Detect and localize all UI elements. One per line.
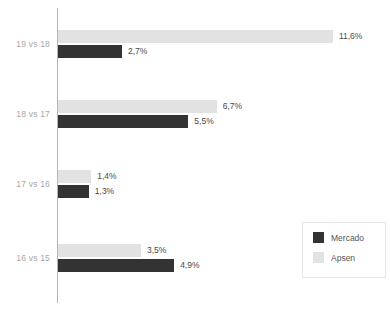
category-group: 18 vs 17 6,7% 5,5% (0, 96, 390, 138)
bar-row-mercado: 5,5% (58, 115, 214, 128)
category-label: 17 vs 16 (0, 179, 50, 189)
bar-chart: 19 vs 18 11,6% 2,7% 18 vs 17 6,7% 5,5% (0, 0, 390, 315)
category-group: 17 vs 16 1,4% 1,3% (0, 166, 390, 208)
bar-apsen[interactable] (58, 100, 217, 113)
category-label: 16 vs 15 (0, 253, 50, 263)
category-group: 19 vs 18 11,6% 2,7% (0, 26, 390, 68)
bar-mercado[interactable] (58, 45, 122, 58)
bar-row-apsen: 3,5% (58, 244, 166, 257)
legend-swatch-icon-mercado (313, 232, 324, 243)
bar-row-apsen: 6,7% (58, 100, 242, 113)
bar-value-apsen: 6,7% (223, 100, 242, 113)
bar-value-mercado: 2,7% (128, 45, 147, 58)
bar-apsen[interactable] (58, 244, 141, 257)
bar-value-mercado: 5,5% (194, 115, 213, 128)
bar-value-apsen: 11,6% (339, 30, 362, 43)
bar-value-apsen: 1,4% (97, 170, 116, 183)
bar-row-apsen: 11,6% (58, 30, 362, 43)
bar-mercado[interactable] (58, 115, 188, 128)
legend-swatch-icon-apsen (313, 252, 324, 263)
category-label: 18 vs 17 (0, 109, 50, 119)
legend-item-mercado[interactable]: Mercado (313, 232, 385, 243)
legend-label-apsen: Apsen (331, 253, 355, 263)
category-label: 19 vs 18 (0, 39, 50, 49)
chart-legend: Mercado Apsen (302, 222, 386, 278)
bar-value-apsen: 3,5% (147, 244, 166, 257)
bar-row-mercado: 2,7% (58, 45, 147, 58)
bar-mercado[interactable] (58, 185, 89, 198)
legend-item-apsen[interactable]: Apsen (313, 252, 385, 263)
bar-row-apsen: 1,4% (58, 170, 117, 183)
bar-value-mercado: 1,3% (95, 185, 114, 198)
bar-mercado[interactable] (58, 259, 174, 272)
bar-row-mercado: 4,9% (58, 259, 200, 272)
bar-apsen[interactable] (58, 170, 91, 183)
legend-label-mercado: Mercado (331, 233, 364, 243)
bar-row-mercado: 1,3% (58, 185, 114, 198)
bar-value-mercado: 4,9% (180, 259, 199, 272)
bar-apsen[interactable] (58, 30, 333, 43)
